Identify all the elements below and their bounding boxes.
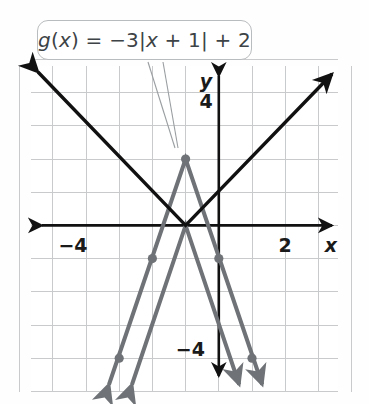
x-tick-label-minus4: −4 bbox=[58, 234, 87, 256]
y-tick-label-4: 4 bbox=[199, 90, 212, 112]
function-expression: −3|x + 1| + 2 bbox=[109, 28, 251, 52]
variable-x: x bbox=[59, 28, 71, 52]
point-vertex bbox=[181, 154, 190, 163]
variable-x-inner: x bbox=[146, 28, 158, 52]
point-left-2 bbox=[115, 354, 124, 363]
figure-root: −4 2 x y 4 −4 g(x) = −3|x + 1| + 2 bbox=[0, 0, 369, 404]
y-axis-label: y bbox=[200, 70, 214, 92]
coordinate-plane: −4 2 x y 4 −4 bbox=[0, 0, 369, 404]
point-right-2 bbox=[247, 354, 256, 363]
point-right-1 bbox=[214, 254, 223, 263]
equals-sign: = bbox=[86, 28, 103, 52]
x-tick-label-2: 2 bbox=[278, 234, 291, 256]
y-tick-label-minus4: −4 bbox=[176, 338, 205, 360]
function-rule-text: g(x) = −3|x + 1| + 2 bbox=[38, 28, 251, 52]
paren-open: ( bbox=[51, 28, 59, 52]
function-name-g: g bbox=[38, 28, 51, 52]
point-left-1 bbox=[148, 254, 157, 263]
paren-close: ) bbox=[71, 28, 79, 52]
function-callout: g(x) = −3|x + 1| + 2 bbox=[37, 20, 252, 60]
x-axis-label: x bbox=[324, 234, 338, 256]
